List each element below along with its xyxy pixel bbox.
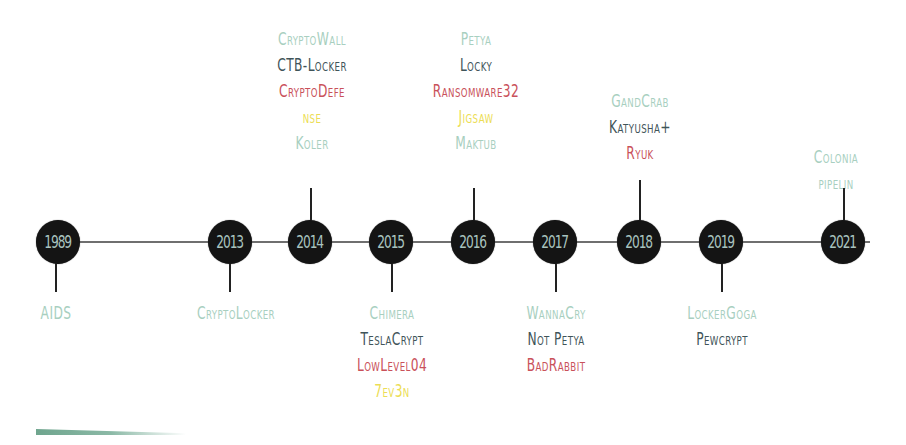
ransomware-group-2015: Chimera TeslaCrypt LowLevel04 7ev3n xyxy=(312,300,472,404)
stem-2017 xyxy=(555,262,557,292)
year-label: 2019 xyxy=(708,232,735,252)
year-label: 2013 xyxy=(217,232,244,252)
ransomware-name: Ransomware32 xyxy=(412,78,540,104)
year-label: 2021 xyxy=(830,232,857,252)
ransomware-name: Chimera xyxy=(328,300,456,326)
year-node-1989: 1989 xyxy=(36,220,80,264)
ransomware-group-1989: AIDS xyxy=(0,300,136,326)
year-label: 1989 xyxy=(45,232,72,252)
ransomware-name: CryptoWall xyxy=(248,26,376,52)
ransomware-name: GandCrab xyxy=(576,88,704,114)
ransomware-name: CryptoLocker xyxy=(172,300,300,326)
ransomware-group-2013: CryptoLocker xyxy=(156,300,316,326)
stem-2014 xyxy=(310,188,312,222)
year-node-2021: 2021 xyxy=(821,220,865,264)
stem-2016 xyxy=(473,188,475,222)
stem-2013 xyxy=(229,262,231,292)
ransomware-name: TeslaCrypt xyxy=(328,326,456,352)
ransomware-group-2018: GandCrab Katyusha+ Ryuk xyxy=(560,88,720,166)
year-label: 2018 xyxy=(626,232,653,252)
decorative-swoosh xyxy=(36,429,186,435)
ransomware-group-2016: Petya Locky Ransomware32 Jigsaw Maktub xyxy=(396,26,556,156)
year-node-2019: 2019 xyxy=(699,220,743,264)
year-label: 2014 xyxy=(297,232,324,252)
ransomware-group-2021: Colonia pipelin xyxy=(766,144,906,196)
ransomware-name: Ryuk xyxy=(576,140,704,166)
ransomware-name: Colonia xyxy=(780,144,892,170)
ransomware-name: 7ev3n xyxy=(328,378,456,404)
ransomware-name: BadRabbit xyxy=(492,352,620,378)
ransomware-name: Pewcrypt xyxy=(658,326,786,352)
ransomware-group-2019: LockerGoga Pewcrypt xyxy=(642,300,802,352)
ransomware-name: Katyusha+ xyxy=(576,114,704,140)
ransomware-name: pipelin xyxy=(780,170,892,196)
stem-2015 xyxy=(391,262,393,292)
ransomware-name: Koler xyxy=(248,130,376,156)
ransomware-name: LockerGoga xyxy=(658,300,786,326)
year-node-2014: 2014 xyxy=(288,220,332,264)
ransomware-name: CryptoDefe xyxy=(248,78,376,104)
ransomware-name: Jigsaw xyxy=(412,104,540,130)
ransomware-name: WannaCry xyxy=(492,300,620,326)
year-node-2013: 2013 xyxy=(208,220,252,264)
year-node-2015: 2015 xyxy=(369,220,413,264)
stem-2018 xyxy=(639,180,641,222)
ransomware-name: Maktub xyxy=(412,130,540,156)
stem-2019 xyxy=(721,262,723,292)
year-label: 2017 xyxy=(542,232,569,252)
year-node-2017: 2017 xyxy=(533,220,577,264)
ransomware-group-2014: CryptoWall CTB-Locker CryptoDefe nse Kol… xyxy=(232,26,392,156)
ransomware-name: CTB-Locker xyxy=(248,52,376,78)
stem-2021 xyxy=(843,188,845,222)
ransomware-name: LowLevel04 xyxy=(328,352,456,378)
ransomware-group-2017: WannaCry Not Petya BadRabbit xyxy=(476,300,636,378)
year-label: 2015 xyxy=(378,232,405,252)
year-label: 2016 xyxy=(460,232,487,252)
ransomware-name: nse xyxy=(248,104,376,130)
year-node-2016: 2016 xyxy=(451,220,495,264)
stem-1989 xyxy=(55,262,57,292)
year-node-2018: 2018 xyxy=(617,220,661,264)
ransomware-name: Locky xyxy=(412,52,540,78)
ransomware-name: Not Petya xyxy=(492,326,620,352)
ransomware-name: Petya xyxy=(412,26,540,52)
ransomware-name: AIDS xyxy=(0,300,120,326)
